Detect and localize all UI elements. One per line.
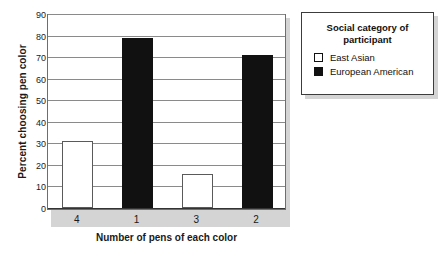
x-tick-label: 3 — [194, 214, 200, 225]
y-tick-label: 0 — [41, 205, 46, 213]
y-tick-label: 90 — [36, 11, 46, 19]
legend-label: European American — [330, 66, 413, 77]
y-tick-label: 70 — [36, 54, 46, 62]
y-axis-tick-labels: 0102030405060708090 — [22, 14, 46, 210]
y-tick-label: 30 — [36, 140, 46, 148]
legend-swatch-filled — [314, 67, 323, 76]
legend-box: Social category of participant East Asia… — [301, 12, 434, 95]
legend-item: East Asian — [314, 52, 433, 63]
plot-area — [47, 14, 286, 210]
y-tick-label: 60 — [36, 76, 46, 84]
legend-title-line1: Social category of — [327, 22, 409, 33]
y-tick-label: 40 — [36, 119, 46, 127]
x-axis-tick-labels: 4132 — [47, 214, 286, 230]
x-tick-label: 1 — [134, 214, 140, 225]
legend-title: Social category of participant — [310, 22, 425, 46]
legend-title-line2: participant — [343, 34, 392, 45]
legend-swatch-open — [314, 53, 323, 62]
y-tick-label: 20 — [36, 162, 46, 170]
x-tick-label: 2 — [253, 214, 259, 225]
bar-3 — [182, 174, 213, 208]
gridline — [48, 14, 285, 15]
gridline — [48, 36, 285, 37]
bar-1 — [122, 38, 153, 208]
legend-item: European American — [314, 66, 433, 77]
legend-items: East AsianEuropean American — [302, 52, 433, 77]
chart-figure: Percent choosing pen color 0102030405060… — [0, 0, 448, 258]
legend-label: East Asian — [330, 52, 375, 63]
bar-4 — [62, 141, 93, 208]
y-tick-label: 50 — [36, 97, 46, 105]
axis-baseline — [48, 208, 285, 209]
y-tick-label: 80 — [36, 33, 46, 41]
y-tick-label: 10 — [36, 183, 46, 191]
x-axis-title: Number of pens of each color — [47, 232, 286, 243]
bar-2 — [242, 55, 273, 208]
x-tick-label: 4 — [74, 214, 80, 225]
